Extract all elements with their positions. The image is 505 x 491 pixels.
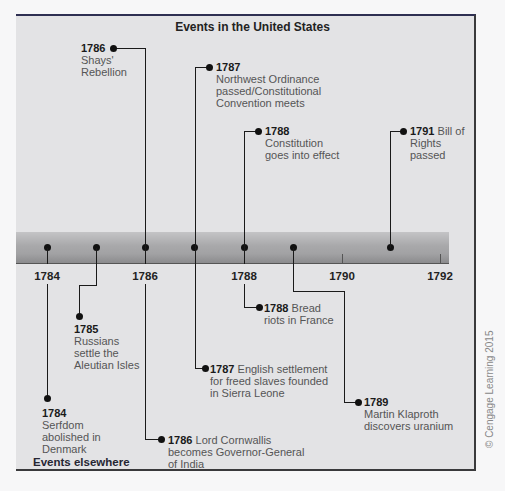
tick-1792 <box>440 254 441 264</box>
connector-else-1786-h <box>145 439 159 440</box>
year-label-1790: 1790 <box>322 270 362 282</box>
events-elsewhere-label: Events elsewhere <box>33 456 130 468</box>
stub-1785 <box>96 248 97 264</box>
connector-else-1785-h <box>79 285 97 286</box>
event-else-1786: 1786 Lord Cornwallisbecomes Governor-Gen… <box>168 434 304 470</box>
event-dot-else-1788 <box>256 304 263 311</box>
year-label-1784: 1784 <box>27 270 67 282</box>
stub-1788 <box>244 248 245 264</box>
connector-else-1789-b <box>344 291 345 403</box>
event-dot-else-1789 <box>355 399 362 406</box>
connector-us-1786 <box>145 49 146 248</box>
stub-1786 <box>145 248 146 264</box>
event-dot-else-1785 <box>76 313 83 320</box>
event-us-1791: 1791 Bill ofRightspassed <box>410 125 464 161</box>
event-else-1787: 1787 English settlementfor freed slaves … <box>210 363 328 399</box>
event-dot-us-1787 <box>206 64 213 71</box>
event-us-1787: 1787Northwest Ordinancepassed/Constituti… <box>216 61 321 109</box>
event-else-1785: 1785Russianssettle theAleutian Isles <box>74 323 139 371</box>
us-events-heading: Events in the United States <box>0 20 505 34</box>
tick-1790 <box>342 254 343 264</box>
connector-us-1791 <box>390 131 391 248</box>
copyright-credit: © Cengage Learning 2015 <box>484 331 495 448</box>
event-else-1788: 1788 Breadriots in France <box>264 302 334 326</box>
connector-else-1785-a <box>96 264 97 286</box>
year-label-1786: 1786 <box>125 270 165 282</box>
event-dot-else-1784 <box>44 395 51 402</box>
event-dot-else-1787 <box>202 365 209 372</box>
connector-else-1789-a <box>293 264 294 292</box>
connector-else-1785-b <box>79 285 80 316</box>
timeline-bar <box>16 232 449 264</box>
event-dot-us-1788 <box>255 128 262 135</box>
connector-else-1787 <box>195 248 196 368</box>
event-dot-else-1786 <box>158 436 165 443</box>
stub-1784 <box>47 248 48 264</box>
stub-1789 <box>293 248 294 264</box>
event-us-1788: 1788Constitutiongoes into effect <box>265 125 339 161</box>
event-us-1786: 1786Shays'Rebellion <box>81 42 127 78</box>
year-label-1788: 1788 <box>224 270 264 282</box>
event-else-1784: 1784Serfdomabolished inDenmark <box>42 407 101 455</box>
connector-else-1789-h1 <box>293 291 345 292</box>
year-label-1792: 1792 <box>420 270 460 282</box>
connector-else-1788 <box>244 284 245 308</box>
connector-else-1784 <box>47 284 48 399</box>
connector-us-1787 <box>195 67 196 248</box>
event-dot-us-1791 <box>400 128 407 135</box>
connector-else-1786 <box>145 284 146 439</box>
event-else-1789: 1789Martin Klaprothdiscovers uranium <box>364 396 453 432</box>
connector-us-1788 <box>244 131 245 248</box>
